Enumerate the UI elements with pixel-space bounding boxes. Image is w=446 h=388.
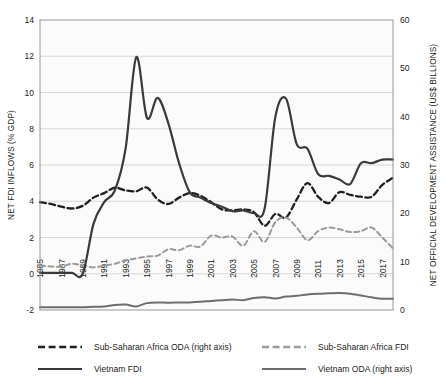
x-tick-label: 2017 [378, 259, 388, 278]
y-tick-label: -2 [26, 305, 34, 315]
x-tick-label: 2009 [292, 259, 302, 278]
x-tick-label: 2011 [313, 259, 323, 277]
legend-label: Vietnam ODA (right axis) [318, 364, 413, 374]
x-tick-label: 2007 [271, 259, 281, 278]
y-tick-label: 10 [24, 88, 34, 98]
fdi-oda-line-chart: 14121086420-2 6050403020100 198519871989… [0, 0, 446, 388]
y-tick-label: 4 [29, 196, 34, 206]
y-tick-label: 14 [24, 15, 34, 25]
x-tick-label: 2003 [228, 259, 238, 278]
legend-label: Sub-Saharan Africa FDI [318, 342, 409, 352]
y2-tick-label: 50 [400, 63, 410, 73]
y2-tick-label: 60 [400, 15, 410, 25]
y2-tick-label: 0 [400, 305, 405, 315]
x-tick-label: 1995 [142, 259, 152, 278]
y-tick-label: 8 [29, 124, 34, 134]
y2-axis-title: NET OFFICIAL DEVELOPMENT ASSISTANCE (US$… [429, 44, 438, 287]
y-tick-label: 2 [29, 233, 34, 243]
y2-tick-label: 30 [400, 160, 410, 170]
y2-tick-label: 20 [400, 208, 410, 218]
y-axis-title: NET FDI INFLOWS (% GDP) [7, 110, 16, 220]
x-tick-label: 1987 [57, 259, 67, 278]
x-tick-label: 1991 [99, 259, 109, 278]
x-tick-label: 1997 [164, 259, 174, 278]
x-tick-label: 2015 [356, 259, 366, 278]
legend-label: Vietnam FDI [94, 364, 142, 374]
y-tick-label: 0 [29, 269, 34, 279]
y-tick-label: 6 [29, 160, 34, 170]
y2-tick-label: 40 [400, 112, 410, 122]
chart-figure: 14121086420-2 6050403020100 198519871989… [0, 0, 446, 388]
x-tick-label: 2001 [206, 259, 216, 278]
y-tick-label: 12 [24, 51, 34, 61]
legend-label: Sub-Saharan Africa ODA (right axis) [94, 342, 232, 352]
y2-tick-label: 10 [400, 257, 410, 267]
x-tick-label: 2005 [249, 259, 259, 278]
x-tick-label: 2013 [335, 259, 345, 278]
x-tick-label: 1999 [185, 259, 195, 278]
